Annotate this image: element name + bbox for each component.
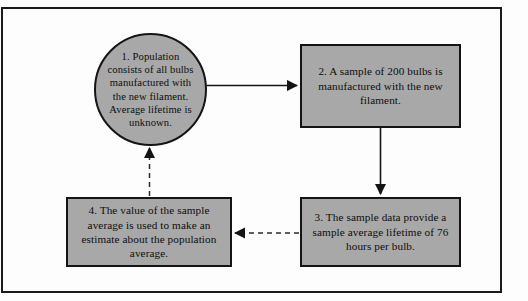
node-inference-label: 4. The value of the sample average is us… (68, 203, 230, 261)
node-inference: 4. The value of the sample average is us… (66, 197, 232, 267)
node-population-label: 1. Population consists of all bulbs manu… (96, 50, 205, 129)
node-population: 1. Population consists of all bulbs manu… (94, 33, 207, 146)
node-sample-statistic-label: 3. The sample data provide a sample aver… (302, 210, 459, 253)
diagram-page: 1. Population consists of all bulbs manu… (0, 0, 528, 301)
node-sample: 2. A sample of 200 bulbs is manufactured… (300, 44, 461, 128)
node-sample-statistic: 3. The sample data provide a sample aver… (300, 197, 461, 267)
node-sample-label: 2. A sample of 200 bulbs is manufactured… (302, 64, 459, 107)
